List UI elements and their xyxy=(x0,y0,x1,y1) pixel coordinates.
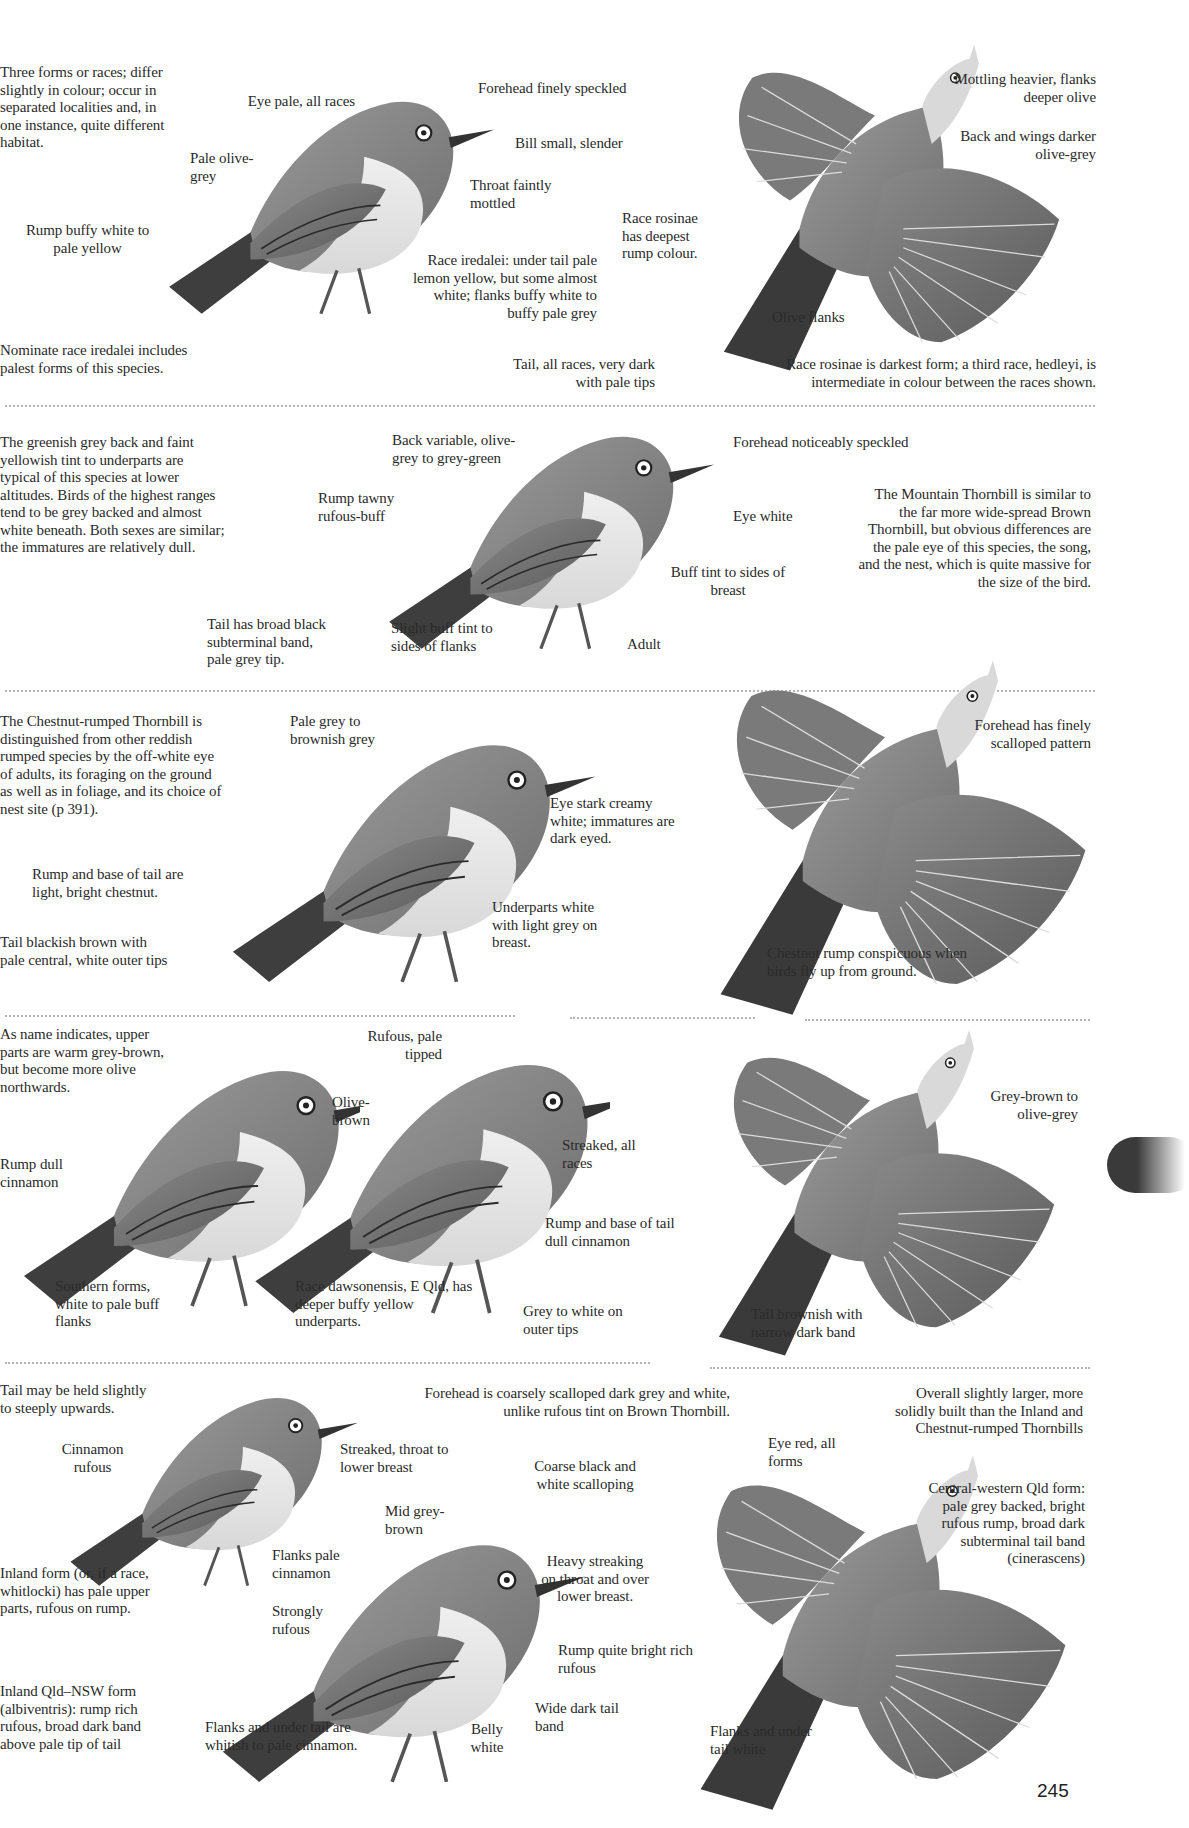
label-flanks-pale-cinnamon: Flanks pale cinnamon xyxy=(272,1547,357,1582)
label-southern-forms: Southern forms, white to pale buff flank… xyxy=(55,1278,175,1331)
label-rump-quite-bright: Rump quite bright rich rufous xyxy=(558,1642,698,1677)
label-rufous-pale-tipped: Rufous, pale tipped xyxy=(330,1028,442,1063)
label-back-variable: Back variable, olive-grey to grey-green xyxy=(392,432,527,467)
label-mottling-heavier: Mottling heavier, flanks deeper olive xyxy=(930,71,1096,106)
label-tail-brownish-narrow-band: Tail brownish with narrow dark band xyxy=(751,1306,886,1341)
label-rump-dull-cinnamon: Rump dull cinnamon xyxy=(0,1156,80,1191)
label-race-iredalei: Race iredalei: under tail pale lemon yel… xyxy=(400,252,597,322)
section-3-intro: The Chestnut-rumped Thornbill is disting… xyxy=(0,713,225,818)
label-adult: Adult xyxy=(627,636,687,654)
label-rump-tawny: Rump tawny rufous-buff xyxy=(318,490,413,525)
bird-illustration-perched-mountain xyxy=(320,405,740,665)
label-pale-grey-brownish: Pale grey to brownish grey xyxy=(290,713,400,748)
label-forehead-noticeably-speckled: Forehead noticeably speckled xyxy=(733,434,983,452)
label-grey-to-white-tips: Grey to white on outer tips xyxy=(523,1303,628,1338)
label-chestnut-rump-conspicuous: Chestnut rump conspicuous when birds fly… xyxy=(767,945,987,980)
label-eye-pale: Eye pale, all races xyxy=(195,93,355,111)
label-overall-larger: Overall slightly larger, more solidly bu… xyxy=(895,1385,1083,1438)
label-olive-brown: Olive-brown xyxy=(332,1094,397,1129)
label-forehead-finely-speckled: Forehead finely speckled xyxy=(478,80,698,98)
label-throat-faintly-mottled: Throat faintly mottled xyxy=(470,177,580,212)
section-divider-3a xyxy=(5,1015,515,1017)
label-streaked-all-races: Streaked, all races xyxy=(562,1137,642,1172)
label-eye-red: Eye red, all forms xyxy=(768,1435,853,1470)
section-2-side-note: The Mountain Thornbill is similar to the… xyxy=(855,486,1091,591)
label-race-dawsonensis: Race dawsonensis, E Qld, has deeper buff… xyxy=(295,1278,475,1331)
label-forehead-finely-scalloped: Forehead has finely scalloped pattern xyxy=(945,717,1091,752)
label-tail-blackish-brown: Tail blackish brown with pale central, w… xyxy=(0,934,170,969)
label-rump-base-tail-dull-cinnamon: Rump and base of tail dull cinnamon xyxy=(545,1215,695,1250)
label-inland-form-whitlocki: Inland form (or, if a race, whitlocki) h… xyxy=(0,1565,165,1618)
label-buff-tint-breast: Buff tint to sides of breast xyxy=(668,564,788,599)
label-flanks-under-tail-white: Flanks and under tail white xyxy=(710,1723,820,1758)
label-rump-buffy-white: Rump buffy white to pale yellow xyxy=(20,222,155,257)
label-belly-white: Belly white xyxy=(462,1721,512,1756)
label-heavy-streaking: Heavy streaking on throat and over lower… xyxy=(540,1553,650,1606)
label-mid-grey-brown: Mid grey-brown xyxy=(385,1503,460,1538)
section-4-intro: As name indicates, upper parts are warm … xyxy=(0,1026,180,1096)
label-slight-buff-tint: Slight buff tint to sides of flanks xyxy=(391,620,521,655)
label-olive-flanks: Olive flanks xyxy=(772,309,882,327)
section-1-footnote-right: Race rosinae is darkest form; a third ra… xyxy=(740,356,1096,391)
bird-illustration-perched-chestnut-tailed xyxy=(160,1510,600,1800)
bird-illustration-perched-chestnut-rumped xyxy=(180,710,600,1000)
section-1-intro: Three forms or races; differ slightly in… xyxy=(0,64,165,152)
label-grey-brown-olive-grey: Grey-brown to olive-grey xyxy=(985,1088,1078,1123)
thumb-index-tab xyxy=(1107,1137,1189,1193)
label-coarse-black-white: Coarse black and white scalloping xyxy=(525,1458,645,1493)
label-strongly-rufous: Strongly rufous xyxy=(272,1603,347,1638)
section-5-intro: Tail may be held slightly to steeply upw… xyxy=(0,1382,160,1417)
label-inland-qld-nsw: Inland Qld–NSW form (albiventris): rump … xyxy=(0,1683,165,1753)
label-pale-olive-grey: Pale olive-grey xyxy=(190,150,262,185)
label-central-western-qld: Central-western Qld form: pale grey back… xyxy=(905,1480,1085,1568)
section-1-footnote-left: Nominate race iredalei includes palest f… xyxy=(0,342,225,377)
label-back-wings-darker: Back and wings darker olive-grey xyxy=(930,128,1096,163)
section-divider-4b xyxy=(710,1367,1090,1369)
label-race-rosinae-rump: Race rosinae has deepest rump colour. xyxy=(622,210,717,263)
label-wide-dark-tail-band: Wide dark tail band xyxy=(535,1700,620,1735)
section-2-intro: The greenish grey back and faint yellowi… xyxy=(0,434,225,557)
section-divider-4a xyxy=(5,1362,650,1364)
label-cinnamon-rufous: Cinnamon rufous xyxy=(50,1441,135,1476)
page-number: 245 xyxy=(1037,1780,1069,1802)
label-tail-all-races: Tail, all races, very dark with pale tip… xyxy=(510,356,655,391)
label-rump-base-tail-chestnut: Rump and base of tail are light, bright … xyxy=(32,866,217,901)
label-bill-small: Bill small, slender xyxy=(515,135,675,153)
label-eye-white: Eye white xyxy=(733,508,833,526)
label-tail-broad-black-band: Tail has broad black subterminal band, p… xyxy=(207,616,337,669)
label-eye-stark-creamy: Eye stark creamy white; immatures are da… xyxy=(550,795,675,848)
label-underparts-white: Underparts white with light grey on brea… xyxy=(492,899,617,952)
label-flanks-under-tail-cinnamon: Flanks and under tail are whitish to pal… xyxy=(205,1719,385,1754)
label-forehead-coarsely-scalloped: Forehead is coarsely scalloped dark grey… xyxy=(405,1385,730,1420)
label-streaked-throat: Streaked, throat to lower breast xyxy=(340,1441,475,1476)
